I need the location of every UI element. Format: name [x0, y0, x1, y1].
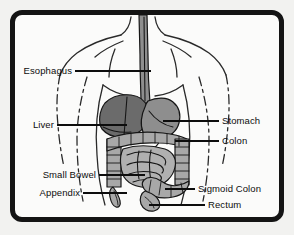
anatomy-diagram: Esophagus Liver Small Bowel Appendix Sto… [15, 15, 279, 217]
liver-shape [100, 95, 148, 137]
right-chest-hint [171, 49, 177, 77]
left-torso-outline [77, 77, 87, 201]
right-clavicle [163, 41, 191, 57]
right-shoulder-outline [165, 35, 226, 75]
label-small-bowel: Small Bowel [43, 169, 96, 180]
left-clavicle [95, 41, 123, 57]
appendix-shape [110, 187, 121, 207]
label-stomach: Stomach [222, 115, 260, 126]
label-colon: Colon [222, 135, 247, 146]
label-sigmoid-colon: Sigmoid Colon [198, 183, 261, 194]
appendix-organ [110, 187, 121, 207]
left-chest-hint [109, 49, 115, 77]
liver-organ [100, 95, 148, 137]
esophagus-organ [139, 15, 150, 103]
left-abdominal-wall [96, 85, 105, 205]
descending-colon [175, 139, 189, 185]
diagram-frame: Esophagus Liver Small Bowel Appendix Sto… [10, 10, 284, 222]
label-rectum: Rectum [208, 199, 241, 210]
label-liver: Liver [33, 119, 54, 130]
label-esophagus: Esophagus [24, 65, 73, 76]
neck-right-outline [155, 17, 165, 35]
figure-root: Esophagus Liver Small Bowel Appendix Sto… [0, 0, 294, 235]
right-diaphragm [155, 85, 183, 96]
label-appendix: Appendix [40, 187, 81, 198]
neck-left-outline [121, 17, 131, 35]
left-arm-outline [57, 75, 64, 167]
